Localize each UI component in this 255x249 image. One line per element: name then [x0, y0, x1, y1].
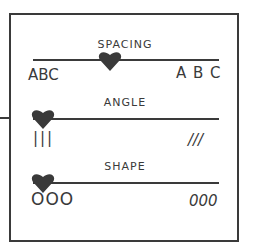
angle-track[interactable] — [33, 118, 219, 120]
spacing-min-label: ABC — [28, 66, 59, 84]
angle-min-label: ||| — [33, 129, 54, 147]
shape-track[interactable] — [33, 182, 219, 184]
angle-max-label: /// — [188, 131, 203, 149]
angle-heart-handle-icon[interactable] — [31, 108, 55, 130]
spacing-label: SPACING — [85, 38, 165, 51]
shape-max-label: 000 — [189, 192, 218, 210]
spacing-track[interactable] — [33, 59, 219, 61]
shape-label: SHAPE — [85, 160, 165, 173]
shape-min-label: OOO — [31, 189, 74, 209]
spacing-heart-handle-icon[interactable] — [98, 50, 122, 72]
spacing-max-label: A B C — [176, 64, 222, 82]
angle-label: ANGLE — [85, 96, 165, 109]
